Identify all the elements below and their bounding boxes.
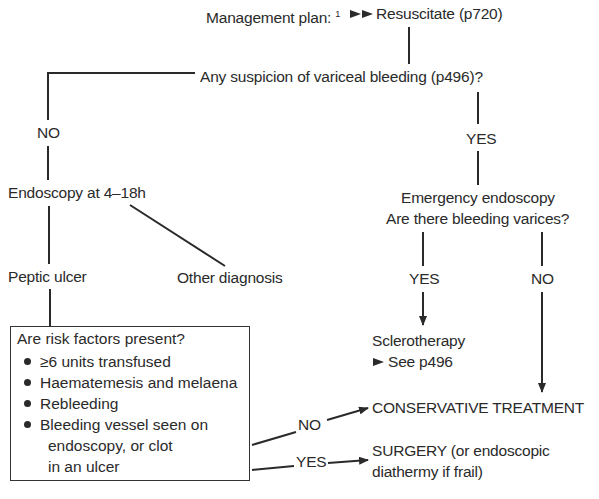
risk-factor-item: Haematemesis and melaena: [23, 372, 237, 393]
bullet-icon: [24, 379, 31, 386]
connector-question-to-no: [48, 73, 195, 120]
footnote-marker: 1: [335, 9, 340, 19]
risk-factors-question: Are risk factors present?: [17, 330, 185, 348]
resuscitate-node: Resuscitate (p720): [376, 5, 503, 23]
risk-factors-list: ≥6 units transfused Haematemesis and mel…: [23, 351, 237, 477]
connector-endoscopy-to-other: [130, 205, 225, 266]
surgery-node: SURGERY (or endoscopic: [372, 442, 550, 460]
sclerotherapy-node: Sclerotherapy: [372, 332, 465, 350]
arrow-yes-to-surgery: [328, 460, 368, 463]
risk-no-label: NO: [298, 416, 321, 434]
risk-factor-item: Bleeding vessel seen on endoscopy, or cl…: [23, 414, 237, 477]
other-diagnosis-node: Other diagnosis: [177, 269, 283, 287]
risk-yes-label: YES: [296, 453, 326, 471]
variceal-question-node: Any suspicion of variceal bleeding (p496…: [200, 68, 483, 86]
varices-yes-label: YES: [409, 270, 439, 288]
risk-factor-item: Rebleeding: [23, 393, 237, 414]
yes-label-variceal: YES: [466, 130, 496, 148]
bullet-icon: [24, 400, 31, 407]
risk-factors-box: Are risk factors present? ≥6 units trans…: [10, 326, 250, 481]
varices-no-label: NO: [531, 270, 554, 288]
title-label: Management plan: 1: [206, 5, 340, 27]
bullet-icon: [24, 358, 31, 365]
connector-box-yes: [252, 466, 294, 470]
double-right-triangle-icon: [350, 10, 373, 18]
peptic-ulcer-node: Peptic ulcer: [8, 268, 87, 286]
conservative-treatment-node: CONSERVATIVE TREATMENT: [372, 399, 584, 417]
endoscopy-node: Endoscopy at 4–18h: [8, 184, 146, 202]
bleeding-varices-question: Are there bleeding varices?: [386, 210, 569, 228]
see-reference: See p496: [388, 353, 453, 371]
surgery-node-line2: diathermy if frail): [372, 463, 483, 481]
bullet-icon: [24, 421, 31, 428]
risk-factor-item: ≥6 units transfused: [23, 351, 237, 372]
right-triangle-icon: [373, 358, 384, 366]
connector-box-no: [252, 432, 296, 445]
emergency-endoscopy-node: Emergency endoscopy: [401, 189, 555, 207]
no-label-variceal: NO: [37, 124, 60, 142]
arrow-no-to-conservative: [327, 408, 368, 420]
